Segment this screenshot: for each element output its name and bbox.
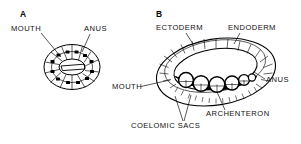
- diagram-svg: A: [0, 0, 301, 144]
- panel-a-label-mouth: MOUTH: [11, 24, 41, 33]
- panel-b: B: [112, 9, 289, 130]
- panel-b-leader-archenteron: [217, 92, 225, 110]
- panel-a-label-anus: ANUS: [84, 24, 107, 33]
- panel-a-leader-mouth: [41, 33, 61, 57]
- panel-a: A: [11, 9, 107, 90]
- panel-b-label-endoderm: ENDODERM: [228, 23, 276, 32]
- panel-b-label-archenteron: ARCHENTERON: [206, 109, 270, 118]
- figure-canvas: A: [0, 0, 301, 144]
- panel-a-lumen: [61, 64, 85, 70]
- panel-b-leader-mouth: [141, 80, 170, 87]
- panel-b-embryo-ring: [152, 30, 281, 114]
- panel-a-letter: A: [20, 9, 26, 19]
- panel-a-cell-ring: [44, 45, 100, 90]
- panel-b-letter: B: [156, 9, 162, 19]
- panel-b-label-anus: ANUS: [266, 75, 289, 84]
- panel-b-label-coelomic-sacs: COELOMIC SACS: [131, 121, 200, 130]
- panel-b-label-ectoderm: ECTODERM: [156, 23, 203, 32]
- panel-b-leader-coelomic-sacs-1: [175, 96, 183, 121]
- panel-b-coelomic-sacs: [179, 73, 256, 93]
- panel-b-leader-ectoderm: [186, 33, 193, 44]
- panel-b-label-mouth: MOUTH: [112, 82, 142, 91]
- panel-b-leader-coelomic-sacs-2: [184, 95, 191, 121]
